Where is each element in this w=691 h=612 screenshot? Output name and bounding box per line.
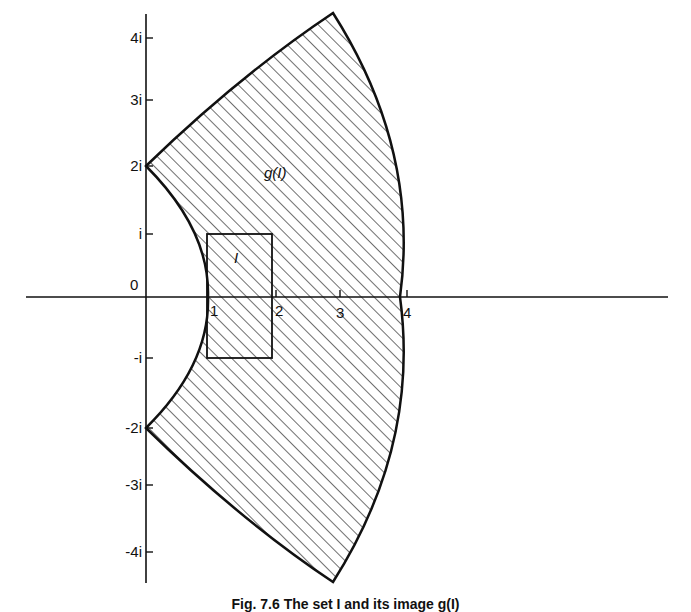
x-tick-label: 2 xyxy=(275,302,283,319)
y-ticks xyxy=(146,38,153,552)
y-tick-label: 4i xyxy=(130,29,142,46)
y-tick-label: i xyxy=(139,225,142,242)
y-tick-label: -3i xyxy=(125,476,142,493)
x-tick-label: 3 xyxy=(336,304,344,321)
y-tick-label: -i xyxy=(134,349,142,366)
figure-caption: Fig. 7.6 The set I and its image g(I) xyxy=(0,596,691,612)
x-tick-label: 4 xyxy=(403,304,411,321)
y-tick-label: 3i xyxy=(130,91,142,108)
x-tick-label: 1 xyxy=(210,302,218,319)
y-tick-label: -2i xyxy=(125,419,142,436)
image-label: g(I) xyxy=(264,164,287,181)
rect-label: I xyxy=(234,249,238,266)
y-tick-label: 2i xyxy=(130,157,142,174)
origin-label: 0 xyxy=(130,276,138,293)
y-tick-label: -4i xyxy=(125,543,142,560)
